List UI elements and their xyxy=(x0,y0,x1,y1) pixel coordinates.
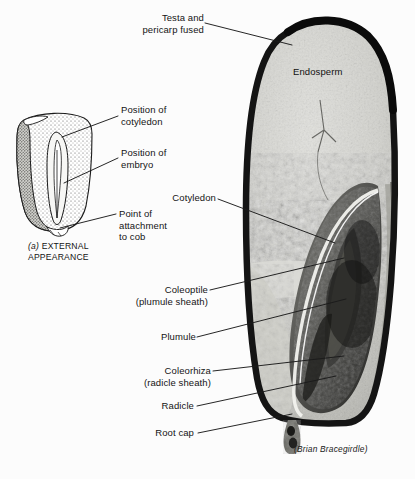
label-endosperm: Endosperm xyxy=(293,66,342,77)
label-point-attachment: Point of attachment to cob xyxy=(119,208,211,243)
panel-a-caption: (a) EXTERNAL APPEARANCE xyxy=(28,241,128,262)
label-plumule: Plumule xyxy=(130,331,196,343)
label-cotyledon: Cotyledon xyxy=(150,192,216,204)
grain-section-micrograph xyxy=(228,14,408,454)
panel-a-caption-prefix: (a) xyxy=(28,241,39,251)
label-position-cotyledon: Position of cotyledon xyxy=(121,104,216,127)
label-testa-pericarp: Testa and pericarp fused xyxy=(100,12,204,35)
external-appearance-drawing xyxy=(6,108,106,238)
label-coleorhiza: Coleorhiza (radicle sheath) xyxy=(95,365,211,388)
photo-credit: (Brian Bracegirdle) xyxy=(294,444,368,454)
label-root-cap: Root cap xyxy=(126,427,194,439)
label-position-embryo: Position of embryo xyxy=(121,147,216,170)
label-radicle: Radicle xyxy=(130,400,194,412)
label-coleoptile: Coleoptile (plumule sheath) xyxy=(92,284,208,307)
figure-root: Testa and pericarp fused Endosperm Posit… xyxy=(0,0,415,479)
